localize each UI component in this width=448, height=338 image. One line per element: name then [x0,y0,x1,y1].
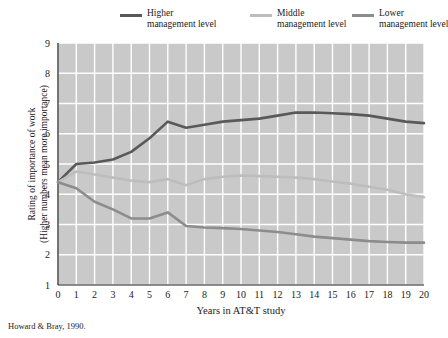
x-axis-tick-label: 1 [74,289,79,300]
x-axis-label: Years in AT&T study [58,305,424,316]
x-axis-tick-label: 16 [346,289,356,300]
y-axis-tick-label: 2 [45,249,50,260]
x-axis-tick-label: 5 [147,289,152,300]
x-axis-tick-label: 2 [92,289,97,300]
source-citation: Howard & Bray, 1990. [8,321,86,331]
y-axis-tick-label: 3 [45,219,50,230]
y-axis-tick-label: 6 [45,128,50,139]
x-axis-tick-label: 3 [110,289,115,300]
x-axis-tick-label: 9 [220,289,225,300]
x-axis-tick-label: 14 [309,289,319,300]
x-axis-tick-label: 20 [419,289,429,300]
x-axis-tick-label: 17 [364,289,374,300]
x-axis-tick-label: 11 [254,289,264,300]
x-axis-tick-label: 6 [165,289,170,300]
x-axis-tick-label: 19 [401,289,411,300]
x-axis-tick-label: 15 [328,289,338,300]
y-axis-tick-label: 9 [45,38,50,49]
x-axis-tick-label: 8 [202,289,207,300]
y-axis-tick-label: 1 [45,280,50,291]
y-axis-tick-label: 4 [45,189,50,200]
x-axis-tick-label: 0 [56,289,61,300]
y-axis-tick-label: 8 [45,68,50,79]
y-axis-tick-label: 5 [45,159,50,170]
x-axis-tick-label: 18 [382,289,392,300]
x-axis-tick-label: 4 [129,289,134,300]
x-axis-tick-label: 13 [291,289,301,300]
x-axis-tick-label: 10 [236,289,246,300]
y-axis-tick-label: 7 [45,98,50,109]
x-axis-tick-label: 12 [273,289,283,300]
x-axis-tick-label: 7 [184,289,189,300]
